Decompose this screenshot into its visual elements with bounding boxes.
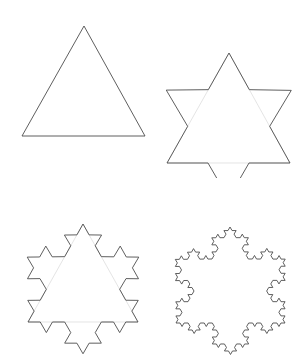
koch-base-triangle-ghost-iteration-2 (28, 224, 138, 322)
koch-base-triangle-ghost-iteration-1 (167, 53, 290, 163)
koch-curve-iteration-2 (27, 224, 139, 354)
koch-curve-iteration-3 (175, 227, 285, 354)
koch-iteration-3-canvas (154, 179, 308, 357)
koch-curve-iteration-1 (166, 53, 291, 178)
figure-koch-iteration-0 (0, 0, 154, 178)
koch-iteration-2-canvas (0, 179, 154, 357)
koch-iteration-1-canvas (154, 0, 308, 178)
figure-koch-iteration-3 (154, 179, 308, 357)
figure-koch-iteration-1 (154, 0, 308, 178)
koch-snowflake-figure-grid (0, 0, 308, 357)
koch-iteration-0-canvas (0, 0, 154, 178)
figure-koch-iteration-2 (0, 179, 154, 357)
koch-curve-iteration-0 (22, 26, 145, 136)
